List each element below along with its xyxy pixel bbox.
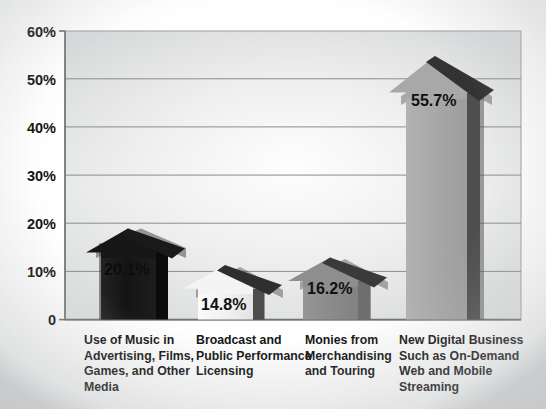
bar-value-label-4: 55.7% [411, 92, 456, 109]
bar-value-label-1: 20.1% [104, 261, 149, 278]
bar-side-3 [357, 281, 370, 320]
y-tick-label-50: 50% [27, 72, 56, 88]
y-tick-label-60: 60% [27, 24, 56, 40]
bar-value-label-3: 16.2% [307, 280, 352, 297]
category-label-1-line-1: Use of Music in [84, 333, 174, 347]
category-label-4-line-3: Web and Mobile [399, 364, 493, 378]
y-tick-label-40: 40% [27, 120, 56, 136]
category-label-2-line-1: Broadcast and [196, 333, 281, 347]
category-label-1-line-4: Media [84, 380, 119, 394]
y-tick-label-10: 10% [27, 264, 56, 280]
chart-container: 60% 50% 40% 30% 20% 10% 0 20.1% [0, 0, 546, 409]
bar-chart: 60% 50% 40% 30% 20% 10% 0 20.1% [0, 0, 546, 409]
category-label-2-line-3: Licensing [196, 364, 253, 378]
category-label-4: New Digital Business Such as On-Demand W… [399, 333, 524, 394]
category-label-1-line-3: Games, and Other [84, 364, 190, 378]
bar-shaft-4 [406, 92, 467, 320]
category-label-4-line-1: New Digital Business [399, 333, 524, 347]
category-label-2: Broadcast and Public Performance Licensi… [196, 333, 312, 378]
y-tick-label-20: 20% [27, 216, 56, 232]
bar-side-1 [155, 252, 168, 320]
bar-side-4 [466, 93, 480, 320]
category-label-3: Monies from Merchandising and Touring [305, 333, 392, 378]
category-label-4-line-2: Such as On-Demand [399, 349, 519, 363]
category-label-3-line-2: Merchandising [305, 349, 392, 363]
y-tick-label-0: 0 [48, 312, 56, 328]
bar-value-label-2: 14.8% [201, 296, 246, 313]
y-tick-label-30: 30% [27, 168, 56, 184]
category-label-1-line-2: Advertising, Films, [84, 349, 194, 363]
y-axis-tick-labels: 60% 50% 40% 30% 20% 10% 0 [27, 24, 56, 329]
category-label-1: Use of Music in Advertising, Films, Game… [84, 333, 194, 394]
category-label-3-line-1: Monies from [305, 333, 378, 347]
x-axis-category-labels: Use of Music in Advertising, Films, Game… [84, 333, 524, 394]
category-label-2-line-2: Public Performance [196, 349, 312, 363]
category-label-3-line-3: and Touring [305, 364, 375, 378]
bar-side-2 [252, 289, 264, 320]
category-label-4-line-4: Streaming [399, 380, 459, 394]
